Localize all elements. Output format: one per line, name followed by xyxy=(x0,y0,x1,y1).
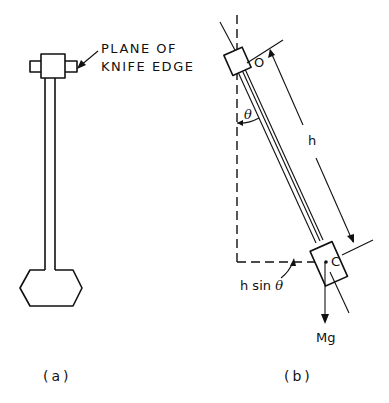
pivot-block xyxy=(224,47,251,75)
length-label-h: h xyxy=(308,133,316,148)
pendulum-diagram: PLANE OF KNIFE EDGE (a) O θ xyxy=(0,0,389,403)
pendulum-bob xyxy=(20,270,82,306)
caption-b: (b) xyxy=(284,368,313,384)
plane-label-line2: KNIFE EDGE xyxy=(101,59,194,74)
pointer-arrow xyxy=(77,51,98,69)
tilted-rod xyxy=(238,69,323,243)
dimension-tick-bottom xyxy=(342,240,373,255)
knife-edge-right-tab xyxy=(64,61,77,72)
theta-label: θ xyxy=(244,107,252,122)
pendulum-rod xyxy=(45,78,55,270)
knife-edge-block xyxy=(41,54,65,78)
bob-block xyxy=(310,242,347,286)
panel-a: PLANE OF KNIFE EDGE (a) xyxy=(20,41,194,384)
center-label-c: C xyxy=(331,254,340,269)
panel-b: O θ h C Mg h xyxy=(220,15,373,384)
plane-label-line1: PLANE OF xyxy=(101,41,177,56)
caption-a: (a) xyxy=(43,368,72,384)
force-label-mg: Mg xyxy=(316,330,335,345)
dimension-tick-top xyxy=(247,40,283,63)
offset-label: h sin θ xyxy=(240,278,283,293)
axis-extension-top xyxy=(220,22,236,52)
